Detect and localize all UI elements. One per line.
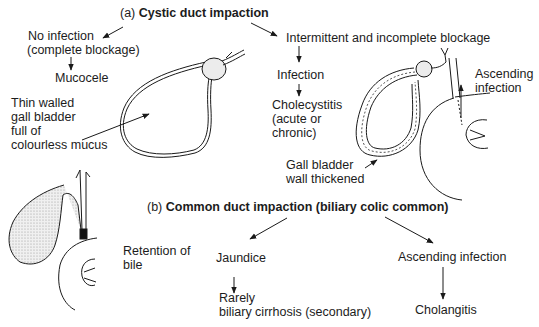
ascending-label: Ascending [475,67,533,82]
section-b-title-text: Common duct impaction (biliary colic com… [166,200,449,214]
infection-label: Infection [277,68,324,83]
arrow-to-intermittent [251,23,277,36]
arrow-to-no-infection [103,27,123,38]
no-infection-label: No infection [28,29,94,44]
cholecystitis-gallbladder-drawing [356,48,490,200]
retention-of-label: Retention of [123,244,190,259]
thin-walled-label: Thin walled [11,96,74,111]
section-a-prefix: (a) [120,6,135,20]
jaundice-label: Jaundice [216,251,266,266]
chronic-label: chronic) [272,126,316,141]
intermittent-blockage-label: Intermittent and incomplete blockage [286,31,490,46]
section-a-title: (a) Cystic duct impaction [120,6,269,21]
mucocele-gallbladder-drawing [120,50,245,157]
ascending-infection-label: Ascending infection [398,250,506,265]
acute-or-label: (acute or [272,112,321,127]
colourless-mucus-label: colourless mucus [11,138,108,153]
section-a-title-text: Cystic duct impaction [139,6,269,20]
rarely-label: Rarely [219,291,255,306]
wall-thickened-label: wall thickened [286,172,365,187]
cholangitis-label: Cholangitis [415,303,477,318]
mucocele-label: Mucocele [55,71,109,86]
bile-label: bile [123,258,142,273]
full-of-label: full of [11,124,41,139]
arrow-to-thickened-wall [365,160,377,168]
arrow-to-mucus [82,114,149,140]
gall-bladder-label: gall bladder [11,110,76,125]
common-duct-gallbladder-drawing [9,170,97,310]
complete-blockage-label: (complete blockage) [27,43,140,58]
infection-side-label: infection [475,81,522,96]
arrow-to-jaundice [250,218,287,239]
biliary-cirrhosis-label: biliary cirrhosis (secondary) [219,305,371,320]
section-b-prefix: (b) [147,200,162,214]
cholecystitis-label: Cholecystitis [272,98,342,113]
arrow-to-ascending-infection [385,217,433,243]
gall-bladder-wall-label: Gall bladder [286,158,353,173]
section-b-title: (b) Common duct impaction (biliary colic… [147,200,448,215]
